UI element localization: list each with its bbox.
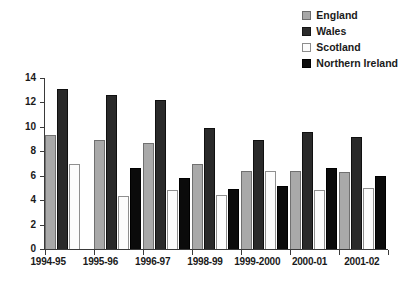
bar-england bbox=[339, 172, 350, 249]
bar-scotland bbox=[314, 190, 325, 249]
bar-wales bbox=[253, 140, 264, 249]
y-axis: 02468101214 bbox=[22, 78, 40, 250]
cropped-title-strip bbox=[0, 0, 406, 7]
x-tick-mark bbox=[241, 250, 242, 255]
plot-area: 02468101214 bbox=[22, 78, 388, 250]
x-tick-mark bbox=[192, 250, 193, 255]
legend-item-scotland[interactable]: Scotland bbox=[302, 40, 360, 54]
bar-northern-ireland bbox=[179, 178, 190, 249]
y-tick-label: 8 bbox=[30, 146, 36, 156]
bar-wales bbox=[302, 132, 313, 249]
bar-northern-ireland bbox=[228, 189, 239, 249]
legend-label: England bbox=[316, 10, 357, 21]
bar-chart: EnglandWalesScotlandNorthern Ireland 024… bbox=[0, 0, 406, 286]
bar-england bbox=[45, 135, 56, 249]
x-axis-label: 1999-2000 bbox=[231, 256, 283, 267]
bar-wales bbox=[57, 89, 68, 249]
x-axis-label: 1995-96 bbox=[74, 256, 126, 267]
bar-england bbox=[192, 164, 203, 250]
bar-group bbox=[94, 78, 143, 249]
bar-england bbox=[290, 171, 301, 249]
bar-wales bbox=[351, 137, 362, 249]
legend-item-northern-ireland[interactable]: Northern Ireland bbox=[302, 56, 398, 70]
x-tick-mark bbox=[45, 250, 46, 255]
x-axis-label: 1996-97 bbox=[127, 256, 179, 267]
legend-swatch-england-icon bbox=[302, 11, 311, 20]
bar-wales bbox=[106, 95, 117, 249]
y-tick-label: 14 bbox=[25, 73, 36, 83]
legend-swatch-wales-icon bbox=[302, 27, 311, 36]
x-tick-mark bbox=[339, 250, 340, 255]
bar-group bbox=[290, 78, 339, 249]
legend-swatch-scotland-icon bbox=[302, 43, 311, 52]
x-axis-label: 2000-01 bbox=[283, 256, 335, 267]
bar-scotland bbox=[265, 171, 276, 249]
bar-england bbox=[241, 171, 252, 249]
bar-group bbox=[339, 78, 388, 249]
x-tick-mark bbox=[290, 250, 291, 255]
bar-scotland bbox=[167, 190, 178, 249]
bar-northern-ireland bbox=[277, 186, 288, 250]
chart-legend: EnglandWalesScotlandNorthern Ireland bbox=[302, 8, 398, 70]
bar-wales bbox=[155, 100, 166, 249]
y-tick-label: 2 bbox=[30, 220, 36, 230]
bar-scotland bbox=[363, 188, 374, 249]
x-axis-labels: 1994-951995-961996-971998-991999-2000200… bbox=[22, 256, 388, 267]
bar-northern-ireland bbox=[130, 168, 141, 249]
y-tick-label: 10 bbox=[25, 122, 36, 132]
bar-wales bbox=[204, 128, 215, 249]
bar-england bbox=[143, 143, 154, 249]
bar-northern-ireland bbox=[326, 168, 337, 249]
y-tick-label: 4 bbox=[30, 195, 36, 205]
x-tick-mark bbox=[143, 250, 144, 255]
x-tick-mark bbox=[388, 250, 389, 255]
bar-group bbox=[192, 78, 241, 249]
bar-england bbox=[94, 140, 105, 249]
bar-group bbox=[241, 78, 290, 249]
y-tick-label: 12 bbox=[25, 97, 36, 107]
bar-northern-ireland bbox=[375, 176, 386, 249]
y-tick-label: 0 bbox=[30, 244, 36, 254]
bars-area bbox=[45, 78, 388, 249]
y-tick-label: 6 bbox=[30, 171, 36, 181]
x-tick-mark bbox=[94, 250, 95, 255]
x-axis-label: 1994-95 bbox=[22, 256, 74, 267]
legend-swatch-northern-ireland-icon bbox=[302, 59, 311, 68]
bar-group bbox=[143, 78, 192, 249]
x-axis-label: 1998-99 bbox=[179, 256, 231, 267]
bar-scotland bbox=[216, 195, 227, 249]
legend-label: Northern Ireland bbox=[316, 58, 398, 69]
legend-item-england[interactable]: England bbox=[302, 8, 357, 22]
bar-scotland bbox=[69, 164, 80, 250]
legend-item-wales[interactable]: Wales bbox=[302, 24, 346, 38]
bar-scotland bbox=[118, 196, 129, 249]
legend-label: Wales bbox=[316, 26, 346, 37]
bar-group bbox=[45, 78, 94, 249]
x-axis-label: 2001-02 bbox=[336, 256, 388, 267]
legend-label: Scotland bbox=[316, 42, 360, 53]
